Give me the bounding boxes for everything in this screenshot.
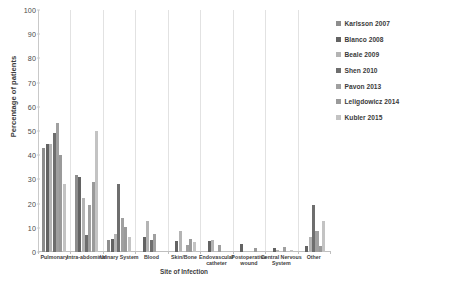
- y-axis-tick-100: 100: [2, 6, 36, 15]
- y-axis-tickmark: [37, 179, 40, 180]
- y-axis-tickmark: [37, 82, 40, 83]
- x-axis-tickmark: [330, 251, 331, 254]
- y-axis-tickmark: [37, 131, 40, 132]
- bar: [322, 221, 325, 252]
- bar: [95, 131, 98, 252]
- bar: [290, 250, 293, 252]
- y-axis-tickmark: [37, 106, 40, 107]
- bar: [128, 237, 131, 252]
- bar-group: [200, 10, 232, 252]
- legend-item[interactable]: Pavon 2013: [336, 78, 452, 94]
- x-axis-label-other: Other: [291, 254, 337, 260]
- group-separator: [298, 10, 299, 252]
- legend-swatch-icon: [336, 37, 341, 42]
- legend-swatch-icon: [336, 115, 341, 120]
- y-axis-tickmark: [37, 227, 40, 228]
- bar: [254, 248, 257, 252]
- bar: [153, 234, 156, 252]
- y-axis-tickmark: [37, 10, 40, 11]
- legend-item-label: Beale 2009: [345, 51, 380, 58]
- y-axis-tickmark: [37, 155, 40, 156]
- bar-group: [168, 10, 200, 252]
- y-axis-tickmark: [37, 203, 40, 204]
- y-axis-tick-20: 20: [2, 199, 36, 208]
- bar: [211, 240, 214, 252]
- group-separator: [135, 10, 136, 252]
- y-axis-tickmark: [37, 58, 40, 59]
- bar-chart-figure: 0102030405060708090100 Percentage of pat…: [0, 0, 456, 285]
- x-axis-tickmark: [168, 251, 169, 254]
- x-axis-tickmark: [265, 251, 266, 254]
- bar: [283, 247, 286, 252]
- y-axis-tick-90: 90: [2, 30, 36, 39]
- x-axis-tickmark: [70, 251, 71, 254]
- bars-layer: [38, 10, 330, 252]
- group-separator: [200, 10, 201, 252]
- legend-swatch-icon: [336, 68, 341, 73]
- legend-item-label: Leligdowicz 2014: [345, 98, 400, 105]
- legend-item[interactable]: Shen 2010: [336, 63, 452, 79]
- bar-group: [38, 10, 70, 252]
- legend-item[interactable]: Leligdowicz 2014: [336, 94, 452, 110]
- bar-group: [135, 10, 167, 252]
- group-separator: [233, 10, 234, 252]
- y-axis-tick-50: 50: [2, 127, 36, 136]
- legend-swatch-icon: [336, 52, 341, 57]
- y-axis-tick-40: 40: [2, 151, 36, 160]
- legend-item[interactable]: Blanco 2008: [336, 32, 452, 48]
- x-axis-tickmark: [298, 251, 299, 254]
- bar: [63, 184, 66, 252]
- legend: Karlsson 2007Blanco 2008Beale 2009Shen 2…: [336, 16, 452, 125]
- legend-item[interactable]: Karlsson 2007: [336, 16, 452, 32]
- group-separator: [103, 10, 104, 252]
- legend-swatch-icon: [336, 84, 341, 89]
- bar-group: [103, 10, 135, 252]
- legend-item-label: Kubler 2015: [345, 114, 383, 121]
- y-axis-title: Percentage of patients: [9, 32, 18, 162]
- x-axis-tickmark: [200, 251, 201, 254]
- x-axis-tickmark: [38, 251, 39, 254]
- legend-item-label: Shen 2010: [345, 67, 378, 74]
- legend-item[interactable]: Beale 2009: [336, 47, 452, 63]
- bar: [179, 231, 182, 252]
- bar: [218, 245, 221, 252]
- bar-group: [265, 10, 297, 252]
- x-axis-tickmark: [135, 251, 136, 254]
- legend-swatch-icon: [336, 21, 341, 26]
- y-axis-tick-30: 30: [2, 175, 36, 184]
- bar: [240, 244, 243, 252]
- x-axis-tickmark: [103, 251, 104, 254]
- group-separator: [70, 10, 71, 252]
- bar-group: [233, 10, 265, 252]
- y-axis-tick-70: 70: [2, 78, 36, 87]
- bar: [276, 250, 279, 252]
- y-axis-tick-80: 80: [2, 54, 36, 63]
- legend-item-label: Karlsson 2007: [345, 20, 390, 27]
- y-axis-tick-60: 60: [2, 102, 36, 111]
- group-separator: [265, 10, 266, 252]
- bar: [193, 242, 196, 252]
- legend-item[interactable]: Kubler 2015: [336, 110, 452, 126]
- legend-item-label: Pavon 2013: [345, 83, 382, 90]
- y-axis-tick-10: 10: [2, 223, 36, 232]
- x-axis-tickmark: [233, 251, 234, 254]
- y-axis-tick-labels: 0102030405060708090100: [0, 10, 36, 252]
- group-separator: [168, 10, 169, 252]
- x-axis-title: Site of Infection: [124, 268, 244, 275]
- legend-swatch-icon: [336, 99, 341, 104]
- y-axis-tickmark: [37, 34, 40, 35]
- x-axis-category-labels: PulmonaryIntra-abdominalUrinary SystemBl…: [38, 254, 330, 280]
- bar-group: [70, 10, 102, 252]
- bar-group: [298, 10, 330, 252]
- legend-item-label: Blanco 2008: [345, 36, 384, 43]
